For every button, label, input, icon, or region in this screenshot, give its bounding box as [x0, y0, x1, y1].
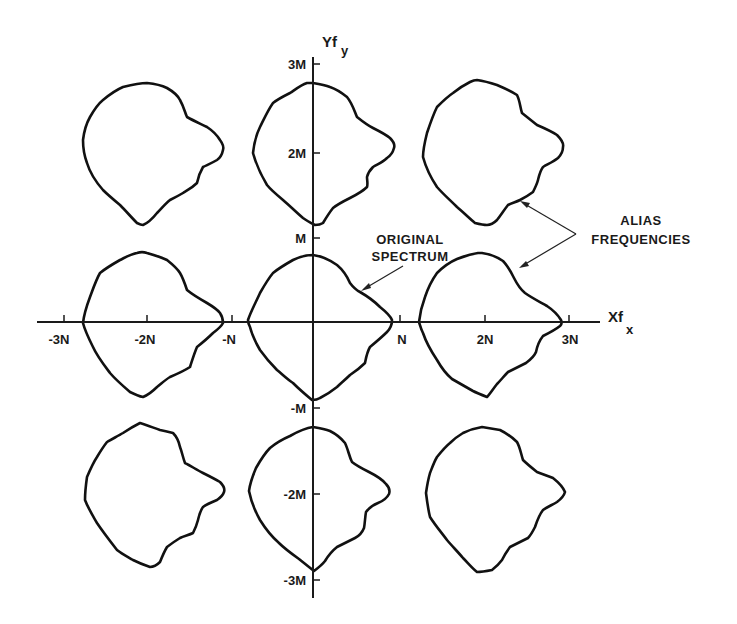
y-tick-label: 2M [288, 146, 306, 161]
x-tick-label: -3N [49, 332, 70, 347]
spectrum-bottom-left [85, 423, 224, 567]
alias-arrow-upper [523, 203, 576, 234]
spectra-group [83, 80, 565, 572]
alias-frequencies-annotation: ALIAS FREQUENCIES [519, 201, 691, 268]
y-tick-label: -M [291, 401, 306, 416]
axes-group [37, 57, 600, 598]
alias-arrow-lower [522, 234, 576, 266]
spectrum-middle-right [419, 253, 562, 397]
y-tick-label: 3M [288, 57, 306, 72]
y-axis-title: Yf [322, 33, 338, 50]
x-tick-label: -N [222, 332, 236, 347]
axis-titles: Yf y Xf x [322, 33, 634, 337]
spectrum-middle-left [83, 252, 223, 397]
x-tick-label: 3N [562, 332, 579, 347]
original-spectrum-annotation: ORIGINAL SPECTRUM [361, 232, 448, 291]
arrowhead-icon [361, 283, 371, 291]
x-axis-title: Xf [608, 308, 624, 325]
original-label-line2: SPECTRUM [372, 249, 449, 264]
alias-label-line2: FREQUENCIES [591, 232, 690, 247]
spectrum-top-left [83, 83, 223, 225]
original-label-line1: ORIGINAL [376, 232, 444, 247]
y-tick-label: M [295, 231, 306, 246]
spectrum-bottom-center [249, 427, 389, 571]
spectrum-center-original [248, 255, 392, 400]
y-tick-label: -2M [284, 487, 306, 502]
alias-label-line1: ALIAS [620, 213, 662, 228]
x-tick-label: N [397, 332, 406, 347]
y-axis-subscript: y [341, 43, 349, 58]
aliasing-diagram: -3N -2N -N N 2N 3N 3M 2M M -M -2M -3M Yf… [0, 0, 737, 624]
x-axis-subscript: x [626, 322, 634, 337]
spectrum-bottom-right [426, 427, 565, 572]
arrowhead-icon [520, 201, 530, 208]
spectrum-top-center [253, 83, 394, 225]
y-tick-label: -3M [284, 573, 306, 588]
x-tick-label: -2N [135, 332, 156, 347]
x-tick-label: 2N [477, 332, 494, 347]
spectrum-top-right [423, 80, 563, 225]
